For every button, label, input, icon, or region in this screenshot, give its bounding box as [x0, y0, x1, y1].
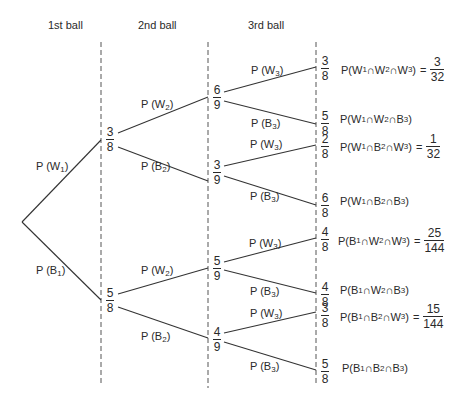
outcome-bwb: P(B1∩W2∩B3): [340, 284, 409, 296]
label-p-w3-2: P (W3): [250, 138, 282, 154]
label-p-b3-1: P (B3): [251, 117, 280, 133]
outcome-bbb: P(B1∩B2∩B3): [342, 362, 408, 374]
node-b1: 58: [106, 287, 114, 314]
node-w1b2: 39: [213, 159, 221, 186]
label-p-w3-4: P (W3): [250, 307, 282, 323]
label-p-w3-1: P (W3): [251, 64, 283, 80]
leaf-bbw: 38: [321, 302, 329, 329]
header-3rd-ball: 3rd ball: [248, 19, 284, 31]
outcome-wbb: P(W1∩B2∩B3): [340, 195, 409, 207]
label-p-b2-upper: P (B2): [141, 160, 170, 176]
branch-w1: [22, 140, 101, 222]
leaf-bww: 48: [321, 226, 329, 253]
label-p-b3-4: P (B3): [250, 360, 279, 376]
leaf-bbb: 58: [321, 358, 329, 385]
result-www: 332: [430, 56, 444, 83]
label-p-b3-2: P (B3): [250, 190, 279, 206]
outcome-www: P(W1∩W2∩W3) = 332: [341, 56, 444, 83]
result-wbw: 132: [426, 133, 440, 160]
label-p-w2-lower: P (W2): [141, 264, 173, 280]
header-2nd-ball: 2nd ball: [138, 19, 177, 31]
outcome-bbw: P(B1∩B2∩W3) = 15144: [340, 303, 443, 330]
result-bbw: 15144: [423, 303, 443, 330]
label-p-b2-lower: P (B2): [141, 330, 170, 346]
label-p-w1: P (W1): [36, 160, 68, 176]
outcome-wbw: P(W1∩B2∩W3) = 132: [340, 133, 440, 160]
header-1st-ball: 1st ball: [48, 19, 83, 31]
branch-b1: [22, 222, 101, 300]
leaf-wbb: 68: [321, 192, 329, 219]
label-p-w3-3: P (W3): [249, 237, 281, 253]
label-p-b1: P (B1): [36, 264, 65, 280]
leaf-www: 38: [321, 55, 329, 82]
result-bww: 25144: [424, 227, 444, 254]
label-p-w2-upper: P (W2): [141, 98, 173, 114]
node-w1: 38: [106, 126, 114, 153]
leaf-wbw: 28: [321, 133, 329, 160]
node-w1w2: 69: [213, 84, 221, 111]
node-b1w2: 59: [213, 255, 221, 282]
outcome-wwb: P(W1∩W2∩B3): [340, 113, 412, 125]
node-b1b2: 49: [213, 326, 221, 353]
outcome-bww: P(B1∩W2∩W3) = 25144: [338, 227, 444, 254]
label-p-b3-3: P (B3): [250, 285, 279, 301]
